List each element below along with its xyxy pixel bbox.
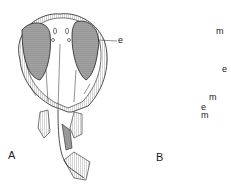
- annotation-m-top: m: [216, 27, 224, 36]
- panel-a-ray: [19, 14, 117, 180]
- annotation-m-low: m: [201, 111, 209, 120]
- annotation-e-a: e: [118, 36, 123, 45]
- panel-a-label: A: [8, 150, 15, 161]
- annotation-e-mid: e: [222, 65, 227, 74]
- annotation-m-mid: m: [209, 93, 217, 102]
- panel-b-label: B: [156, 152, 163, 163]
- figure-drawing: [0, 0, 231, 188]
